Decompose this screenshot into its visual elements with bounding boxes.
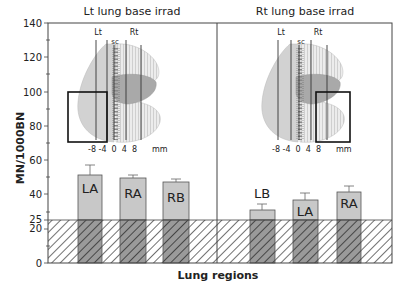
inset-scale: -8 -4 0 4 8 [88, 145, 137, 154]
left-panel-bars: LA RA RB [78, 165, 189, 263]
bar-right-LB [250, 210, 275, 220]
svg-text:80: 80 [29, 121, 42, 132]
panel-left-title: Lt lung base irrad [84, 5, 181, 18]
right-panel-bars: LB LA RA [250, 186, 361, 263]
y-axis-label: MN/1000BN [14, 112, 27, 184]
inset-unit: mm [336, 145, 352, 154]
x-axis-label: Lung regions [178, 269, 259, 282]
svg-text:40: 40 [29, 189, 42, 200]
bar-label: LB [254, 186, 270, 201]
svg-text:60: 60 [29, 155, 42, 166]
bar-label: RA [340, 196, 358, 211]
inset-rt-label: Rt [130, 28, 139, 37]
svg-text:0: 0 [36, 258, 42, 269]
svg-text:120: 120 [23, 52, 42, 63]
inset-lt-label: Lt [94, 28, 102, 37]
bar-label: RA [124, 186, 142, 201]
chart: Lt lung base irrad Rt lung base irrad LA… [0, 0, 399, 295]
bar-label: LA [297, 204, 314, 219]
right-lung-inset: Lt sc Rt -8 -4 0 4 8 mm [262, 28, 352, 154]
inset-unit: mm [152, 145, 168, 154]
bar-label: LA [82, 181, 99, 196]
left-lung-inset: Lt sc Rt -8 -4 0 4 8 mm [68, 28, 168, 154]
svg-text:100: 100 [23, 87, 42, 98]
inset-scale: -8 -4 0 4 8 [272, 145, 321, 154]
inset-rt-label: Rt [314, 28, 323, 37]
panel-right-title: Rt lung base irrad [256, 5, 354, 18]
inset-sc-label: sc [297, 38, 305, 46]
inset-sc-label: sc [111, 38, 119, 46]
svg-text:140: 140 [23, 18, 42, 29]
svg-text:25: 25 [29, 214, 42, 225]
bar-label: RB [167, 190, 185, 205]
inset-lt-label: Lt [277, 28, 285, 37]
